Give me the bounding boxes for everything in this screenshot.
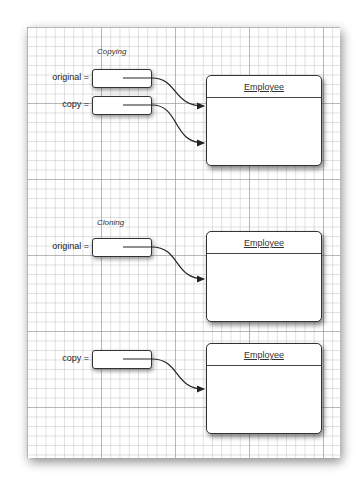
cloning-copy-employee-object: Employee	[206, 343, 322, 434]
employee-class-name: Employee	[207, 344, 321, 366]
copying-copy-reference-box	[92, 96, 152, 115]
cloning-copy-reference-box	[92, 350, 152, 369]
employee-class-name: Employee	[207, 76, 321, 98]
cloning-original-label: original =	[25, 241, 89, 251]
cloning-original-employee-object: Employee	[206, 231, 322, 322]
cloning-title: Cloning	[97, 218, 124, 227]
copying-title: Copying	[97, 47, 126, 56]
copying-copy-label: copy =	[25, 99, 89, 109]
copying-original-label: original =	[25, 72, 89, 82]
copying-original-reference-box	[92, 69, 152, 88]
cloning-copy-label: copy =	[25, 353, 89, 363]
copying-employee-object: Employee	[206, 75, 322, 166]
cloning-original-reference-box	[92, 238, 152, 257]
employee-class-name: Employee	[207, 232, 321, 254]
